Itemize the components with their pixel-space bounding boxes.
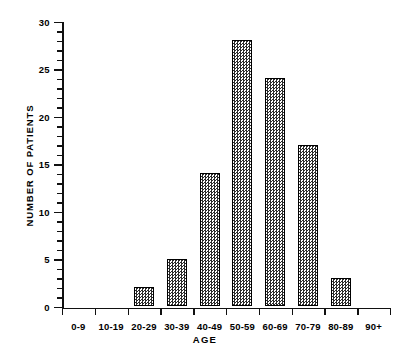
x-axis-tick-label: 90+: [346, 322, 402, 332]
histogram-chart: NUMBER OF PATIENTS 051015202530 0-910-19…: [0, 0, 410, 360]
y-axis-tick-label: 30: [4, 18, 50, 28]
x-axis-tick: [292, 308, 293, 315]
y-axis-minor-tick: [57, 60, 62, 61]
x-axis-title: AGE: [0, 334, 410, 345]
y-axis-minor-tick: [57, 297, 62, 298]
y-axis-minor-tick: [57, 145, 62, 146]
x-axis-tick: [160, 308, 161, 315]
y-axis-major-tick: [54, 22, 62, 23]
y-axis-major-tick: [54, 69, 62, 70]
y-axis-minor-tick: [57, 126, 62, 127]
y-axis-minor-tick: [57, 250, 62, 251]
y-axis-major-tick: [54, 164, 62, 165]
y-axis-minor-tick: [57, 98, 62, 99]
y-axis-minor-tick: [57, 88, 62, 89]
y-axis-minor-tick: [57, 288, 62, 289]
y-axis-minor-tick: [57, 155, 62, 156]
y-axis-line: [62, 22, 64, 309]
y-axis-minor-tick: [57, 231, 62, 232]
y-axis-major-tick: [54, 212, 62, 213]
y-axis-major-tick: [54, 117, 62, 118]
y-axis-minor-tick: [57, 240, 62, 241]
y-axis-minor-tick: [57, 50, 62, 51]
x-axis-tick: [390, 308, 391, 315]
x-axis-tick: [259, 308, 260, 315]
y-axis-minor-tick: [57, 269, 62, 270]
bar: [167, 259, 187, 307]
bar: [200, 173, 220, 306]
x-axis-tick: [193, 308, 194, 315]
bar: [134, 287, 154, 306]
y-axis-tick-label: 15: [4, 160, 50, 170]
y-axis-tick-label: 10: [4, 208, 50, 218]
bar: [298, 145, 318, 307]
y-axis-minor-tick: [57, 278, 62, 279]
bar: [265, 78, 285, 306]
y-axis-major-tick: [54, 259, 62, 260]
y-axis-major-tick: [54, 307, 62, 308]
y-axis-minor-tick: [57, 107, 62, 108]
y-axis-minor-tick: [57, 221, 62, 222]
y-axis-tick-label: 25: [4, 65, 50, 75]
bar: [331, 278, 351, 307]
x-axis-tick: [128, 308, 129, 315]
x-axis-tick: [95, 308, 96, 315]
y-axis-minor-tick: [57, 79, 62, 80]
y-axis-minor-tick: [57, 136, 62, 137]
bar: [232, 40, 252, 306]
y-axis-tick-label: 0: [4, 303, 50, 313]
y-axis-minor-tick: [57, 31, 62, 32]
y-axis-minor-tick: [57, 193, 62, 194]
x-axis-tick: [62, 308, 63, 315]
y-axis-minor-tick: [57, 174, 62, 175]
plot-area: 051015202530 0-910-1920-2930-3940-4950-5…: [62, 22, 390, 308]
x-axis-tick: [324, 308, 325, 315]
y-axis-minor-tick: [57, 41, 62, 42]
x-axis-tick: [226, 308, 227, 315]
y-axis-minor-tick: [57, 202, 62, 203]
y-axis-minor-tick: [57, 183, 62, 184]
x-axis-tick: [357, 308, 358, 315]
y-axis-tick-label: 5: [4, 255, 50, 265]
y-axis-tick-label: 20: [4, 113, 50, 123]
